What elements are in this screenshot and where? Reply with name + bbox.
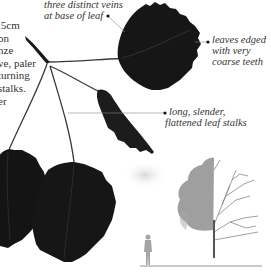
human-scale-figure <box>144 235 152 266</box>
annotation-stalks: long, slender, flattened leaf stalks <box>169 106 247 128</box>
annotation-line: with very <box>212 45 266 56</box>
description-line: er <box>0 95 58 108</box>
annotation-line: leaves edged <box>212 34 266 45</box>
annotation-veins: three distinct veins at base of leaf <box>44 0 123 21</box>
annotation-line: flattened leaf stalks <box>165 117 247 128</box>
bullet-dot <box>163 111 166 114</box>
description-text: .5cm on nze ve, paler turning stalks. er <box>0 19 58 107</box>
bullet-dot <box>206 40 209 43</box>
annotation-line: long, slender, <box>169 106 247 117</box>
leaf-shadow <box>123 161 167 189</box>
description-line: turning <box>0 69 58 82</box>
description-line: nze <box>0 44 58 57</box>
annotation-line: three distinct veins <box>44 0 123 10</box>
annotation-line: coarse teeth <box>212 56 266 67</box>
leaf-middle <box>97 89 154 154</box>
annotation-edges: leaves edged with very coarse teeth <box>212 34 266 67</box>
leaf-top <box>118 2 201 90</box>
description-line: stalks. <box>0 82 58 95</box>
annotation-line: at base of leaf <box>44 10 123 21</box>
leaf-bottom-center <box>32 162 116 262</box>
description-line: ve, paler <box>0 57 58 70</box>
description-line: on <box>0 32 58 45</box>
